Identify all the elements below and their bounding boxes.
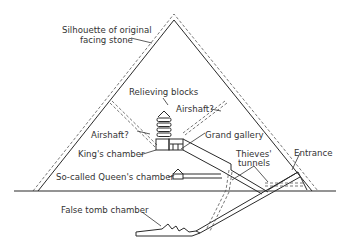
pyramid-cross-section-diagram: Silhouette of original facing stone Reli… — [0, 0, 337, 249]
facing-stone-silhouette — [33, 14, 318, 191]
label-thieves-tunnels-line2: tunnels — [238, 158, 270, 168]
airshaft-left — [110, 101, 157, 147]
pyramid-outline — [38, 20, 312, 191]
false-tomb-chamber — [136, 224, 200, 236]
label-silhouette-line1: Silhouette of original — [62, 25, 152, 35]
label-silhouette-line2: facing stone — [80, 35, 133, 45]
label-airshaft-right: Airshaft? — [176, 104, 214, 114]
label-grand-gallery: Grand gallery — [205, 130, 264, 140]
relieving-blocks — [157, 111, 171, 137]
descending-passage — [196, 172, 300, 233]
entrance-structure — [268, 172, 307, 190]
label-false-tomb-chamber: False tomb chamber — [61, 205, 149, 215]
queens-chamber — [173, 169, 222, 179]
label-kings-chamber: King's chamber — [78, 149, 145, 159]
label-queens-chamber: So-called Queen's chamber — [56, 172, 175, 182]
label-entrance: Entrance — [294, 148, 333, 158]
label-relieving-blocks: Relieving blocks — [129, 87, 199, 97]
label-airshaft-left: Airshaft? — [91, 130, 129, 140]
kings-chamber — [156, 139, 183, 150]
